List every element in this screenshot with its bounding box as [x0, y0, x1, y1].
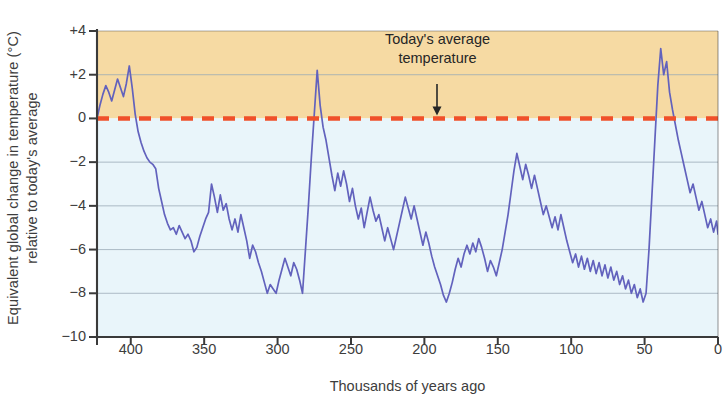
y-tick-label: +4 [40, 22, 86, 38]
y-tick-label: 0 [40, 109, 86, 125]
y-tick-label: −4 [40, 197, 86, 213]
x-tick-label: 350 [174, 341, 234, 357]
x-tick-label: 50 [615, 341, 675, 357]
y-tick-label: −6 [40, 241, 86, 257]
y-axis-title-line2: relative to today's average [23, 92, 42, 264]
y-tick-label: +2 [40, 66, 86, 82]
y-tick-label: −10 [40, 328, 86, 344]
x-tick-label: 150 [468, 341, 528, 357]
x-tick-label: 300 [248, 341, 308, 357]
y-tick-label: −2 [40, 153, 86, 169]
x-tick-label: 0 [688, 341, 723, 357]
band-cooler-than-today [97, 118, 718, 337]
y-tick-label: −8 [40, 284, 86, 300]
y-axis-title-line1: Equivalent global change in temperature … [4, 31, 23, 325]
x-tick-label: 100 [541, 341, 601, 357]
x-tick-label: 400 [101, 341, 161, 357]
x-tick-label: 250 [321, 341, 381, 357]
x-axis-title: Thousands of years ago [97, 378, 718, 394]
x-tick-label: 200 [394, 341, 454, 357]
chart-figure: Equivalent global change in temperature … [0, 0, 723, 410]
